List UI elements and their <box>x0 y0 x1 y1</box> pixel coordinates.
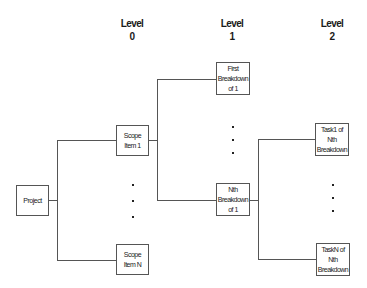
level-2-number: 2 <box>312 30 352 43</box>
ellipsis-dot <box>132 184 134 186</box>
node-scope-item-1-line-1: Scope <box>124 131 141 141</box>
level-0-label: Level <box>112 17 152 30</box>
node-taskn-line-3: Breakdown <box>318 265 349 275</box>
connector-to-scope-item-1 <box>57 140 116 141</box>
ellipsis-dot <box>232 152 234 154</box>
ellipsis-dot <box>232 139 234 141</box>
ellipsis-dot <box>332 197 334 199</box>
connector-to-taskn <box>258 259 316 260</box>
connector-level0-trunk <box>57 140 58 261</box>
node-taskn: TaskN of Nth Breakdown <box>316 243 350 276</box>
node-task1-line-2: Nth <box>317 135 348 145</box>
node-project-line-1: Project <box>23 196 41 206</box>
node-project: Project <box>16 185 49 216</box>
level-0-header: Level 0 <box>112 17 152 43</box>
connector-level1-trunk <box>157 79 158 201</box>
node-taskn-line-1: TaskN of <box>318 245 349 255</box>
node-scope-item-n-line-1: Scope <box>124 250 142 260</box>
ellipsis-dot <box>132 200 134 202</box>
level-1-number: 1 <box>212 30 252 43</box>
level-2-header: Level 2 <box>312 17 352 43</box>
node-first-breakdown: First Breakdown of 1 <box>216 62 250 95</box>
connector-to-task1 <box>258 139 315 140</box>
level-1-header: Level 1 <box>212 17 252 43</box>
node-first-breakdown-line-3: of 1 <box>218 84 249 94</box>
node-task1-line-3: Breakdown <box>317 145 348 155</box>
node-first-breakdown-line-2: Breakdown <box>218 74 249 84</box>
connector-to-nth-breakdown <box>157 200 216 201</box>
node-nth-breakdown-line-2: Breakdown <box>218 195 249 205</box>
connector-to-scope-item-n <box>57 260 116 261</box>
connector-to-first-breakdown <box>157 79 216 80</box>
node-first-breakdown-line-1: First <box>218 64 249 74</box>
node-scope-item-n-line-2: Item N <box>124 260 142 270</box>
node-nth-breakdown-line-1: Nth <box>218 185 249 195</box>
node-scope-item-n: Scope Item N <box>116 244 149 275</box>
node-nth-breakdown-line-3: of 1 <box>218 205 249 215</box>
node-task1-line-1: Task1 of <box>317 125 348 135</box>
ellipsis-dot <box>332 184 334 186</box>
connector-level2-trunk <box>258 139 259 260</box>
node-scope-item-1: Scope Item 1 <box>116 125 149 156</box>
connector-project-stub <box>49 200 57 201</box>
ellipsis-dot <box>332 210 334 212</box>
connector-nth-stub <box>250 200 258 201</box>
node-scope-item-1-line-2: Item 1 <box>124 141 141 151</box>
level-0-number: 0 <box>112 30 152 43</box>
node-task1: Task1 of Nth Breakdown <box>315 123 349 156</box>
ellipsis-dot <box>132 216 134 218</box>
ellipsis-dot <box>232 126 234 128</box>
connector-scope1-stub <box>148 140 157 141</box>
node-nth-breakdown: Nth Breakdown of 1 <box>216 183 250 216</box>
level-2-label: Level <box>312 17 352 30</box>
level-1-label: Level <box>212 17 252 30</box>
node-taskn-line-2: Nth <box>318 255 349 265</box>
